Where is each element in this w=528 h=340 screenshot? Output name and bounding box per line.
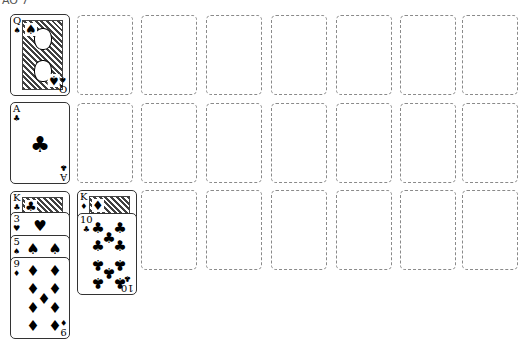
diamond-icon: ♦ (13, 270, 20, 278)
card-ten-of-clubs[interactable]: 10 ♣ ♣ ♣ ♣ ♣ ♣ ♣ ♣ ♣ ♣ ♣ 10 ♣ (77, 213, 137, 295)
card-rank: K (80, 192, 87, 202)
empty-slot[interactable] (271, 103, 327, 183)
empty-slot[interactable] (77, 103, 133, 183)
card-corner-top: 3 ♥ (13, 214, 20, 233)
card-corner-top: A ♣ (13, 104, 20, 123)
card-corner-top: K ♦ (80, 192, 87, 211)
empty-slot[interactable] (271, 15, 327, 95)
empty-slot[interactable] (462, 103, 518, 183)
card-corner-top: Q ♠ (13, 16, 21, 35)
club-icon: ♣ (83, 226, 90, 234)
empty-slot[interactable] (206, 15, 262, 95)
card-corner-bottom: A ♣ (60, 163, 67, 182)
club-icon: ♣ (13, 204, 20, 212)
spade-icon: ♠ (25, 23, 37, 36)
empty-slot[interactable] (271, 190, 327, 270)
club-icon: ♣ (30, 134, 50, 156)
spade-icon: ♠ (14, 27, 21, 35)
card-corner-top: K ♣ (13, 193, 20, 212)
empty-slot[interactable] (462, 190, 518, 270)
empty-slot[interactable] (206, 103, 262, 183)
card-rank: Q (13, 16, 21, 26)
spade-icon: ♠ (26, 242, 39, 257)
diamond-icon: ♦ (48, 264, 61, 279)
card-rank: 5 (13, 237, 19, 247)
card-rank: K (13, 193, 20, 203)
card-rank: 10 (121, 283, 134, 293)
card-rank: A (13, 104, 20, 114)
empty-slot[interactable] (336, 103, 392, 183)
heart-icon: ♥ (13, 225, 20, 233)
diamond-icon: ♦ (26, 301, 39, 316)
club-icon: ♣ (113, 239, 126, 254)
diamond-icon: ♦ (80, 203, 87, 211)
club-icon: ♣ (13, 115, 20, 123)
diamond-icon: ♦ (48, 301, 61, 316)
heart-icon: ♥ (33, 219, 46, 234)
empty-slot[interactable] (462, 15, 518, 95)
empty-slot[interactable] (141, 103, 197, 183)
card-corner-bottom: Q ♠ (59, 75, 67, 94)
diamond-icon: ♦ (26, 264, 39, 279)
empty-slot[interactable] (141, 15, 197, 95)
club-icon: ♣ (60, 163, 67, 171)
face-card-portrait: ♠ ♠ (22, 20, 63, 90)
club-icon: ♣ (124, 274, 131, 282)
club-icon: ♣ (91, 275, 104, 290)
card-corner-bottom: 10 ♣ (121, 274, 134, 293)
card-rank: 9 (60, 327, 66, 337)
spade-icon: ♠ (59, 75, 66, 83)
card-nine-of-diamonds[interactable]: 9 ♦ ♦ ♦ ♦ ♦ ♦ ♦ ♦ ♦ ♦ 9 ♦ (10, 257, 70, 339)
card-rank: A (60, 172, 67, 182)
card-rank: 3 (13, 214, 19, 224)
empty-slot[interactable] (141, 190, 197, 270)
club-icon: ♣ (91, 239, 104, 254)
diamond-icon: ♦ (60, 318, 67, 326)
spade-icon: ♠ (48, 242, 61, 257)
empty-slot[interactable] (336, 190, 392, 270)
window-title-fragment: AO 7 (2, 0, 29, 7)
card-rank: 9 (13, 259, 19, 269)
card-corner-top: 5 ♠ (13, 237, 20, 256)
empty-slot[interactable] (400, 103, 456, 183)
empty-slot[interactable] (206, 190, 262, 270)
card-corner-bottom: 9 ♦ (60, 318, 67, 337)
empty-slot[interactable] (336, 15, 392, 95)
empty-slot[interactable] (400, 15, 456, 95)
empty-slot[interactable] (77, 15, 133, 95)
spade-icon: ♠ (13, 248, 20, 256)
card-ace-of-clubs[interactable]: A ♣ ♣ A ♣ (10, 102, 70, 184)
card-queen-of-spades[interactable]: ♠ ♠ Q ♠ Q ♠ (10, 14, 70, 96)
diamond-icon: ♦ (92, 199, 104, 212)
empty-slot[interactable] (400, 190, 456, 270)
card-rank: Q (59, 84, 67, 94)
card-corner-top: 9 ♦ (13, 259, 20, 278)
diamond-icon: ♦ (26, 319, 39, 334)
